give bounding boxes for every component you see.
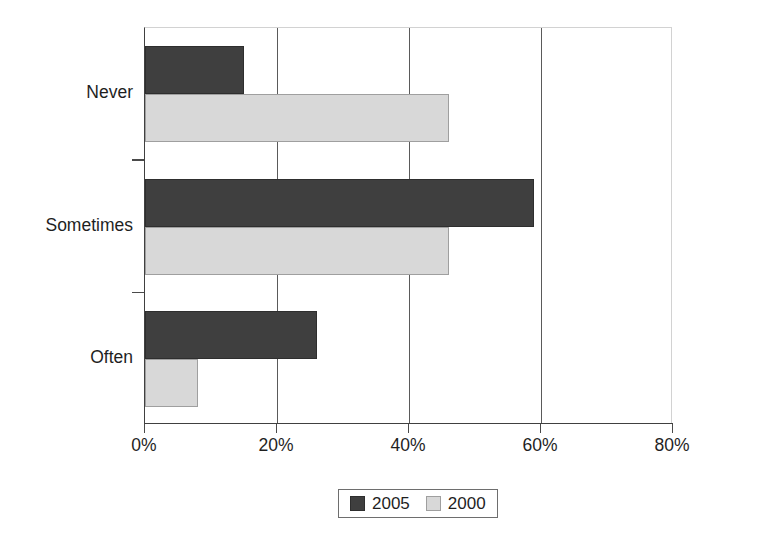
x-tick-label-60: 60%: [522, 437, 557, 455]
x-tick-label-80: 80%: [654, 437, 689, 455]
plot-area: [144, 27, 672, 424]
bar-sometimes-2005: [145, 179, 534, 227]
x-tick-label-0: 0%: [131, 437, 156, 455]
category-label-often: Often: [90, 349, 133, 367]
bar-never-2005: [145, 46, 244, 94]
bar-chart: NeverSometimesOften 0%20%40%60%80% 20052…: [0, 0, 761, 542]
category-label-sometimes: Sometimes: [45, 217, 133, 235]
category-axis-labels: NeverSometimesOften: [0, 0, 133, 424]
legend-label-2000: 2000: [448, 495, 486, 512]
bar-often-2005: [145, 311, 317, 359]
legend-entry-2000[interactable]: 2000: [426, 495, 486, 512]
x-tick-80: [672, 424, 673, 433]
x-tick-label-20: 20%: [258, 437, 293, 455]
bar-sometimes-2000: [145, 227, 449, 275]
gridline-60: [541, 28, 542, 424]
x-tick-60: [540, 424, 541, 433]
category-label-never: Never: [86, 84, 133, 102]
category-tick-2: [132, 292, 144, 293]
x-tick-40: [408, 424, 409, 433]
legend-swatch-2000: [426, 496, 441, 511]
legend-swatch-2005: [350, 496, 365, 511]
category-tick-1: [132, 159, 144, 160]
x-tick-0: [144, 424, 145, 433]
legend-label-2005: 2005: [372, 495, 410, 512]
chart-legend: 20052000: [338, 489, 498, 518]
bar-never-2000: [145, 94, 449, 142]
x-tick-20: [276, 424, 277, 433]
legend-entry-2005[interactable]: 2005: [350, 495, 410, 512]
x-tick-label-40: 40%: [390, 437, 425, 455]
bar-often-2000: [145, 359, 198, 407]
